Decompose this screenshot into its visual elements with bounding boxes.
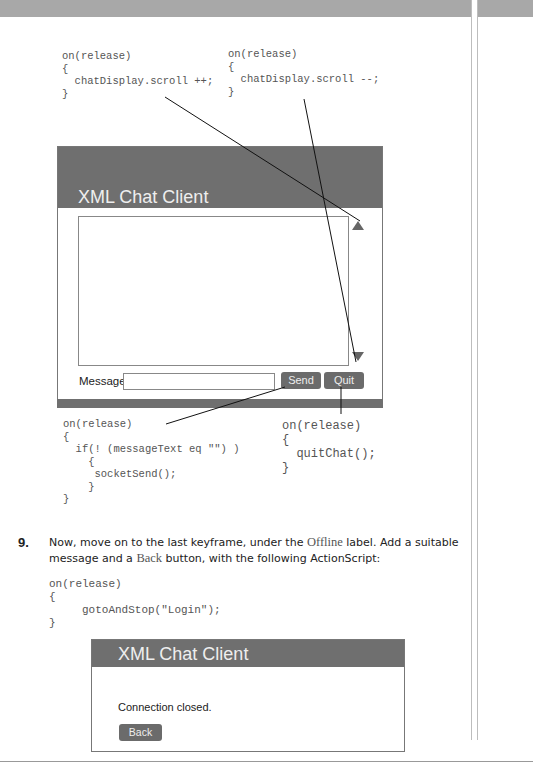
- connection-closed-message: Connection closed.: [118, 701, 212, 713]
- code-back: on(release) { gotoAndStop("Login"); }: [49, 578, 221, 630]
- chat-window: XML Chat Client Message: Send Quit: [57, 146, 383, 408]
- message-input[interactable]: [123, 373, 275, 390]
- send-button[interactable]: Send: [281, 372, 321, 389]
- term-offline: Offline: [307, 535, 343, 549]
- page-header-bar: [0, 0, 471, 17]
- quit-button[interactable]: Quit: [324, 372, 364, 389]
- code-scroll-up: on(release) { chatDisplay.scroll --; }: [228, 48, 379, 98]
- offline-window: XML Chat Client Connection closed. Back: [91, 639, 405, 752]
- chat-window-footer: [57, 399, 383, 408]
- page-footer-rule: [0, 761, 533, 762]
- code-scroll-down: on(release) { chatDisplay.scroll ++; }: [62, 50, 213, 100]
- scroll-up-arrow-icon[interactable]: [352, 221, 364, 230]
- code-quit: on(release) { quitChat(); }: [282, 419, 376, 475]
- term-back: Back: [136, 551, 162, 565]
- margin-rule-left: [471, 0, 472, 740]
- offline-window-title: XML Chat Client: [118, 644, 248, 665]
- page-header-bar-margin: [478, 0, 533, 17]
- scroll-down-arrow-icon[interactable]: [352, 352, 364, 361]
- step-text: Now, move on to the last keyframe, under…: [49, 535, 461, 566]
- code-send: on(release) { if(! (messageText eq "") )…: [63, 418, 239, 506]
- chat-display[interactable]: [78, 216, 349, 366]
- message-label: Message:: [79, 375, 129, 387]
- margin-rule-right: [477, 0, 478, 740]
- chat-window-title: XML Chat Client: [78, 187, 208, 208]
- step-number: 9.: [18, 535, 29, 550]
- back-button[interactable]: Back: [119, 724, 162, 741]
